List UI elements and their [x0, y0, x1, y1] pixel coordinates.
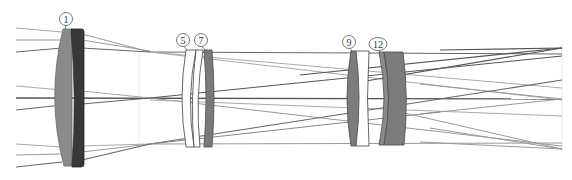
svg-text:7: 7 — [199, 35, 204, 46]
lens-diagram: 1 5 7 9 12 — [0, 0, 572, 180]
label-7: 7 — [195, 34, 208, 51]
ray-bundle-middle — [16, 56, 562, 146]
label-12: 12 — [369, 38, 387, 53]
label-9: 9 — [343, 36, 356, 52]
element-labels: 1 5 7 9 12 — [60, 13, 388, 53]
svg-text:5: 5 — [181, 35, 186, 46]
svg-text:1: 1 — [64, 14, 69, 25]
svg-text:12: 12 — [373, 39, 383, 50]
svg-text:9: 9 — [347, 37, 352, 48]
lens-element-1 — [55, 29, 72, 166]
label-1: 1 — [60, 13, 73, 30]
lens-group-1 — [55, 29, 84, 167]
label-5: 5 — [177, 34, 190, 51]
optical-ray-trace-svg: 1 5 7 9 12 — [0, 0, 572, 180]
